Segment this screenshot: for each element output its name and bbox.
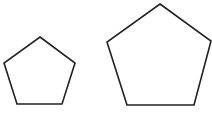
diagram-canvas <box>0 0 212 119</box>
small-pentagon <box>4 37 75 104</box>
large-pentagon <box>107 4 211 105</box>
